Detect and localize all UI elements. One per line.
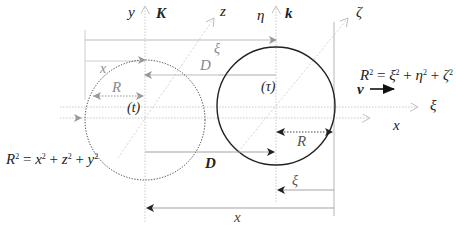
- eta-axis-label: η: [257, 8, 264, 23]
- upper-xi-label: ξ: [214, 42, 220, 56]
- upper-D-label: D: [200, 58, 211, 73]
- z-axis: [118, 18, 214, 158]
- moving-sphere-equation: R2 = ξ2 + η2 + ζ2: [360, 68, 453, 83]
- left-R-label: R: [112, 80, 121, 95]
- diagram-drawing: [0, 0, 456, 237]
- x-axis-label: x: [393, 118, 400, 133]
- frame-K-label: K: [156, 6, 166, 21]
- xi-axis-label: ξ: [430, 98, 436, 113]
- z-axis-label: z: [220, 4, 226, 19]
- zeta-axis-label: ζ: [356, 5, 362, 20]
- relativity-diagram: y K z η k ζ ξ x ξ D x R (t) (τ) R2 = ξ2 …: [0, 0, 456, 237]
- moving-axes: [60, 6, 418, 202]
- lower-D-label: D: [205, 156, 216, 171]
- right-R-label: R: [297, 134, 306, 149]
- stationary-circle-label: (t): [127, 101, 140, 115]
- y-axis-label: y: [128, 5, 135, 20]
- lower-xi-label: ξ: [292, 174, 298, 188]
- frame-k-label: k: [285, 6, 293, 21]
- velocity-label: v: [357, 82, 364, 97]
- bottom-x-label: x: [234, 210, 241, 225]
- arc-x-label: x: [100, 62, 106, 76]
- stationary-sphere-equation: R2 = x2 + z2 + y2: [6, 152, 98, 167]
- moving-circle-label: (τ): [261, 80, 275, 94]
